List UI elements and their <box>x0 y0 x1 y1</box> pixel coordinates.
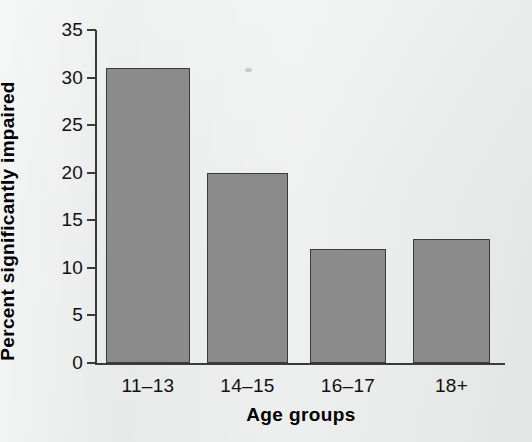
plot-area: 05101520253035 11–1314–1516–1718+ <box>97 30 505 363</box>
y-axis-tick-label: 35 <box>61 19 83 41</box>
bar <box>106 68 190 363</box>
x-axis-title: Age groups <box>97 404 505 426</box>
y-axis-tick-label: 15 <box>61 209 83 231</box>
y-axis-tick <box>87 172 96 174</box>
scan-speck <box>245 68 252 72</box>
chart-figure: 05101520253035 11–1314–1516–1718+ Age gr… <box>0 0 532 442</box>
y-axis-tick <box>87 219 96 221</box>
y-axis-tick <box>87 29 96 31</box>
x-axis-line <box>95 363 505 365</box>
x-axis-tick-label: 11–13 <box>122 375 175 397</box>
x-axis-tick-label: 18+ <box>435 375 468 397</box>
y-axis-tick-label: 5 <box>72 304 83 326</box>
x-axis-tick-label: 16–17 <box>321 375 375 397</box>
bar <box>207 173 288 363</box>
y-axis-tick-label: 20 <box>61 162 83 184</box>
bar <box>310 249 386 363</box>
bar <box>413 239 490 363</box>
y-axis-tick <box>87 124 96 126</box>
y-axis-tick <box>87 314 96 316</box>
y-axis-tick <box>87 362 96 364</box>
x-axis-tick-label: 14–15 <box>220 375 274 397</box>
y-axis-tick <box>87 267 96 269</box>
y-axis-tick-label: 30 <box>61 67 83 89</box>
y-axis-tick-label: 10 <box>61 257 83 279</box>
y-axis-tick-label: 25 <box>61 114 83 136</box>
y-axis-title: Percent significantly impaired <box>0 0 34 442</box>
y-axis-tick <box>87 77 96 79</box>
y-axis-tick-label: 0 <box>72 352 83 374</box>
